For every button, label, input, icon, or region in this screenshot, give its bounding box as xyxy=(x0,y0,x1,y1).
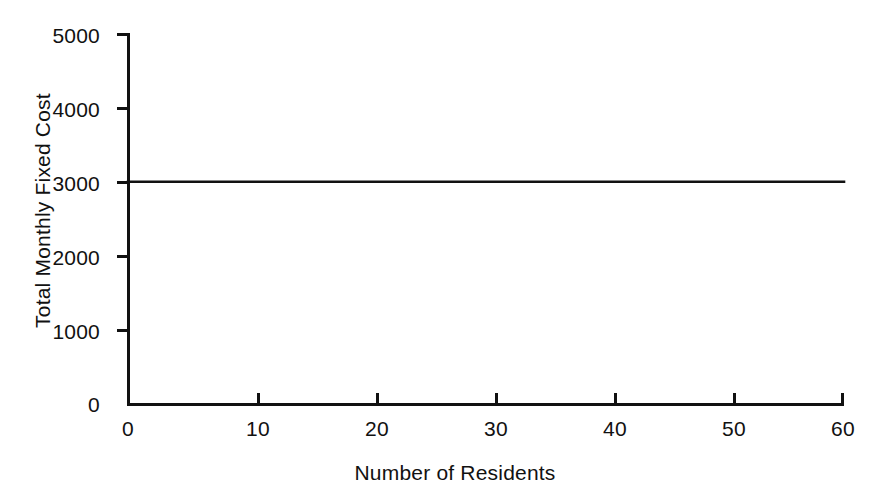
x-tick-label-30: 30 xyxy=(456,418,536,439)
plot-area xyxy=(128,33,844,405)
series-svg xyxy=(128,33,844,405)
x-tick-label-20: 20 xyxy=(337,418,417,439)
x-tick-label-50: 50 xyxy=(694,418,774,439)
x-tick-label-10: 10 xyxy=(218,418,298,439)
y-tick-label-3000: 3000 xyxy=(38,173,100,194)
x-tick-label-40: 40 xyxy=(575,418,655,439)
fixed-cost-line-chart: Total Monthly Fixed Cost 5000 4000 3000 … xyxy=(0,0,876,504)
y-tick-label-2000: 2000 xyxy=(38,247,100,268)
y-tick-label-4000: 4000 xyxy=(38,99,100,120)
x-axis-title: Number of Residents xyxy=(255,462,655,483)
x-tick-label-60: 60 xyxy=(803,418,876,439)
y-tick-label-1000: 1000 xyxy=(38,321,100,342)
x-tick-label-0: 0 xyxy=(88,418,168,439)
y-tick-label-0: 0 xyxy=(38,394,100,415)
y-tick-label-5000: 5000 xyxy=(38,25,100,46)
